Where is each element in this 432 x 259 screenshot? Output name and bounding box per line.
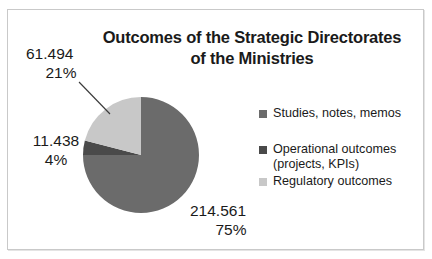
chart-legend: Studies, notes, memos Operational outcom…	[259, 106, 425, 189]
data-label-studies-percent: 75%	[186, 220, 282, 239]
data-label-operational-percent: 4%	[14, 150, 98, 169]
legend-item-regulatory[interactable]: Regulatory outcomes	[259, 174, 425, 190]
legend-swatch-icon-operational	[259, 146, 267, 154]
legend-label-studies: Studies, notes, memos	[273, 106, 425, 122]
legend-label-regulatory: Regulatory outcomes	[273, 174, 425, 190]
data-label-regulatory-percent: 21%	[26, 63, 110, 82]
legend-swatch-icon-studies	[259, 110, 267, 118]
data-label-regulatory-value: 61.494	[26, 44, 110, 63]
legend-label-operational: Operational outcomes (projects, KPIs)	[273, 142, 425, 173]
legend-item-studies[interactable]: Studies, notes, memos	[259, 106, 425, 122]
legend-item-operational[interactable]: Operational outcomes (projects, KPIs)	[259, 142, 425, 173]
legend-label-operational-line-2: (projects, KPIs)	[273, 157, 425, 173]
legend-swatch-icon-regulatory	[259, 178, 267, 186]
data-label-studies-value: 214.561	[186, 201, 282, 220]
data-label-operational: 11.438 4%	[14, 131, 98, 169]
data-label-studies: 214.561 75%	[186, 201, 282, 239]
legend-label-operational-line-1: Operational outcomes	[273, 142, 396, 156]
data-label-operational-value: 11.438	[14, 131, 98, 150]
plot-area: 61.494 21% 11.438 4% 214.561 75% Studies…	[0, 0, 432, 259]
data-label-regulatory: 61.494 21%	[26, 44, 110, 82]
